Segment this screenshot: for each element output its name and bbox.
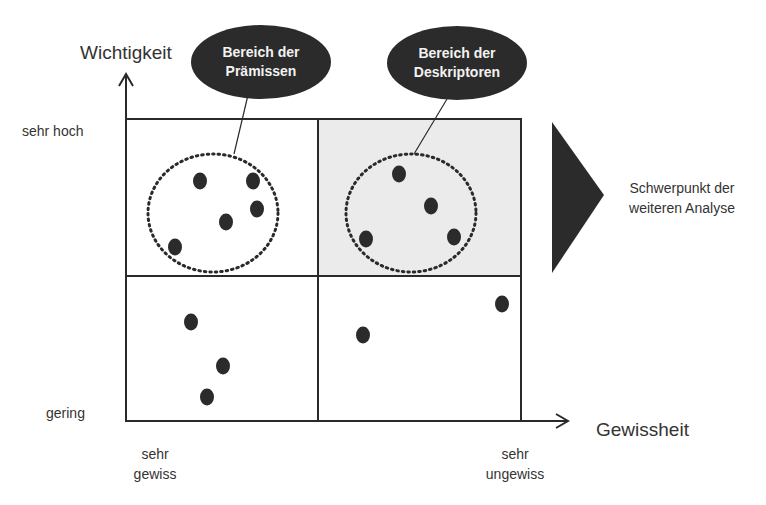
y-high-label: sehr hoch (22, 121, 83, 141)
premises-leader-line (234, 95, 248, 154)
x-high-label: sehr ungewiss (480, 444, 550, 484)
premises-callout-text: Bereich der Prämissen (191, 43, 331, 81)
focus-label: Schwerpunkt der weiteren Analyse (612, 178, 752, 218)
x-low-label: sehr gewiss (120, 444, 190, 484)
x-axis-title: Gewissheit (596, 419, 689, 441)
focus-arrow-icon (552, 122, 604, 273)
y-low-label: gering (46, 403, 85, 423)
descriptors-callout-text: Bereich der Deskriptoren (387, 44, 527, 82)
y-axis-title: Wichtigkeit (80, 42, 172, 64)
